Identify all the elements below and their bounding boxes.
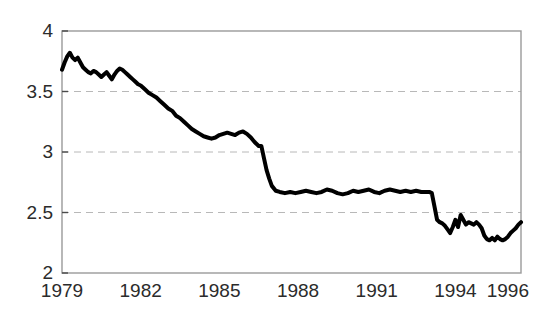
x-tick-label-1996: 1996 bbox=[487, 280, 529, 302]
x-tick-label-1991: 1991 bbox=[356, 280, 398, 302]
y-tick-label-4: 4 bbox=[42, 20, 53, 42]
chart-figure: 22.533.54 1979198219851988199119941996 bbox=[0, 0, 558, 318]
x-tick-label-1988: 1988 bbox=[277, 280, 319, 302]
y-tick-label-3.5: 3.5 bbox=[27, 81, 53, 103]
y-tick-label-2.5: 2.5 bbox=[27, 202, 53, 224]
x-tick-label-1985: 1985 bbox=[198, 280, 240, 302]
x-tick-label-1994: 1994 bbox=[434, 280, 476, 302]
y-tick-label-3: 3 bbox=[42, 141, 53, 163]
line-chart-canvas bbox=[0, 0, 558, 318]
x-tick-label-1982: 1982 bbox=[120, 280, 162, 302]
x-tick-label-1979: 1979 bbox=[41, 280, 83, 302]
gridlines bbox=[62, 92, 521, 213]
